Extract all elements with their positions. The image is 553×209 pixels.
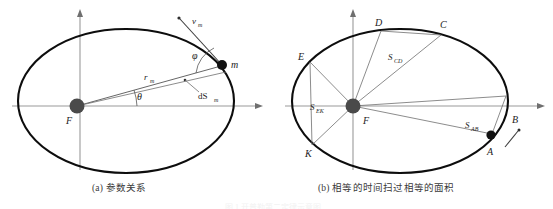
area-label-EK: S EK [310, 102, 325, 114]
point-label-K: K [304, 148, 313, 159]
area-label-AB-sub: AB [470, 126, 479, 132]
caption-panel-a: (a) 参数关系 [92, 180, 147, 194]
y-axis-arrow-b [350, 9, 356, 17]
area-label-CD-sub: CD [394, 58, 403, 64]
ray-to-E [310, 62, 353, 106]
area-label-EK-sub: EK [315, 108, 325, 114]
point-label-B: B [512, 114, 518, 125]
focus-label-b: F [362, 115, 370, 126]
area-label-CD: S CD [388, 52, 403, 64]
motion-arrow-tip-b [518, 129, 521, 132]
clipped-bottom-text-label: 图 1 开普勒第二定律示意图 [225, 203, 321, 209]
point-label-D: D [374, 17, 383, 28]
point-label-C: C [440, 19, 447, 30]
focus-point-b [346, 99, 361, 114]
area-label-EK-base: S [310, 102, 315, 112]
moving-point-b [486, 130, 495, 139]
area-label-AB: S AB [465, 120, 479, 132]
orbit-ellipse-b [292, 29, 508, 173]
clipped-bottom-text: 图 1 开普勒第二定律示意图 [0, 203, 553, 209]
point-label-E: E [297, 51, 304, 62]
x-axis-arrow-b [537, 103, 545, 109]
motion-direction-arrow-b [505, 131, 518, 147]
figure-root: F m r m v m dS m θ φ [0, 0, 553, 209]
area-label-AB-base: S [465, 120, 470, 130]
area-label-CD-base: S [388, 52, 393, 62]
ray-to-B [353, 96, 506, 106]
panel-b-diagram: A B C D E K F S AB S CD S EK [0, 0, 553, 209]
point-label-A: A [486, 146, 494, 157]
caption-panel-b: (b) 相等的时间扫过相等的面积 [318, 180, 455, 194]
